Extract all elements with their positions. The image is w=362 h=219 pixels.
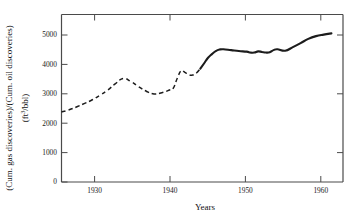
x-tick-label: 1930 xyxy=(87,186,102,195)
chart-figure: 0 1000 2000 3000 4000 5000 1930 1940 195… xyxy=(0,0,362,219)
y-tick-label: 3000 xyxy=(42,89,57,98)
y-tick-label: 5000 xyxy=(42,30,57,39)
x-tick-label: 1940 xyxy=(163,186,178,195)
y-tick-label: 0 xyxy=(53,177,57,186)
y-axis-label: (Cum. gas discoveries)/(Cum. oil discove… xyxy=(4,25,14,190)
x-tick-label: 1950 xyxy=(238,186,253,195)
x-tick-labels: 1930 1940 1950 1960 xyxy=(87,186,328,195)
y-units-tail: /bbl) xyxy=(20,94,30,111)
series-line-estimated xyxy=(62,69,201,112)
y-tick-marks xyxy=(62,35,68,182)
x-tick-label: 1960 xyxy=(313,186,328,195)
y-tick-label: 4000 xyxy=(42,60,57,69)
line-chart-svg: 0 1000 2000 3000 4000 5000 1930 1940 195… xyxy=(0,0,362,219)
series-line-measured xyxy=(200,33,331,68)
y-axis-units: (ft3/bbl) xyxy=(19,94,30,123)
y-tick-label: 2000 xyxy=(42,119,57,128)
svg-text:(ft3/bbl): (ft3/bbl) xyxy=(19,94,30,123)
y-tick-labels: 0 1000 2000 3000 4000 5000 xyxy=(42,30,57,186)
x-axis-label: Years xyxy=(195,202,216,212)
y-tick-label: 1000 xyxy=(42,148,57,157)
